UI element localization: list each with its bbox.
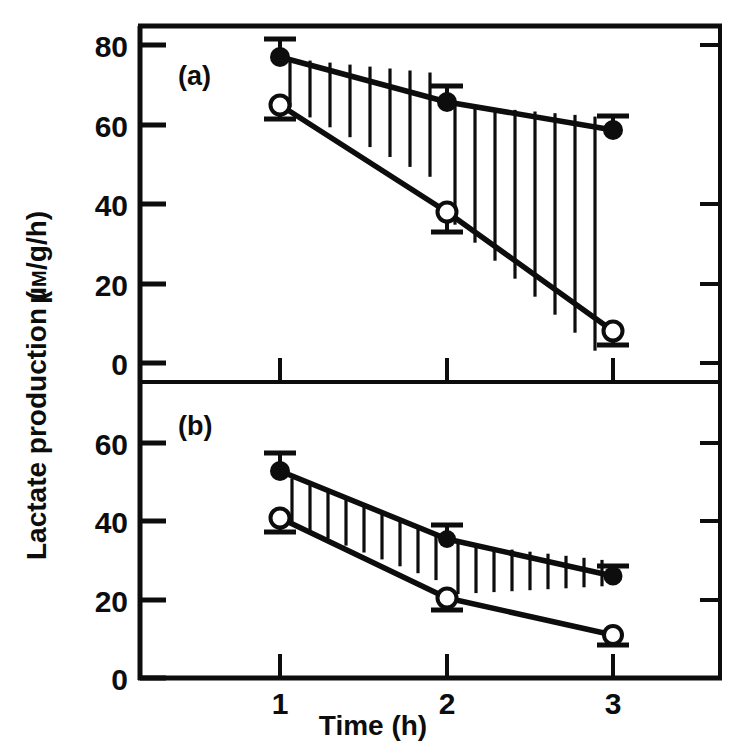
- y-axis-label-m: M: [28, 270, 50, 287]
- panel-a-ytick-60: 60: [95, 110, 128, 143]
- panel-a-y-ticks: [140, 45, 166, 363]
- y-axis-label-tail: /g/h): [21, 211, 52, 270]
- panel-a-ytick-80: 80: [95, 30, 128, 63]
- panel-b-y-ticks: [140, 443, 166, 678]
- panel-b-closed-error-bars: [264, 453, 629, 576]
- panel-b-tag: (b): [178, 411, 212, 441]
- panel-b-right-ticks: [700, 443, 720, 600]
- panel-b-ytick-60: 60: [95, 428, 128, 461]
- y-axis-label: Lactate production ( μ M /g/h): [21, 211, 52, 560]
- panel-b-ytick-40: 40: [95, 506, 128, 539]
- panel-b: 60 40 20 0 1 2 3 (b): [95, 382, 722, 720]
- figure-container: Lactate production ( μ M /g/h) Time (h): [0, 0, 746, 756]
- panel-b-xtick-3: 3: [605, 687, 622, 720]
- panel-a-ytick-0: 0: [111, 348, 128, 381]
- lactate-production-figure: Lactate production ( μ M /g/h) Time (h): [0, 0, 746, 756]
- panel-a-tag: (a): [178, 61, 211, 91]
- panel-b-ytick-20: 20: [95, 585, 128, 618]
- y-axis-label-mu: μ: [21, 287, 52, 304]
- panel-a-right-ticks: [700, 45, 720, 363]
- panel-a-x-ticks: [280, 358, 613, 382]
- panel-a-closed-markers: [270, 47, 623, 140]
- panel-a-ytick-40: 40: [95, 189, 128, 222]
- panel-b-xtick-1: 1: [272, 687, 289, 720]
- panel-b-x-ticks: [280, 654, 613, 678]
- panel-a-ytick-20: 20: [95, 269, 128, 302]
- panel-b-xtick-2: 2: [439, 687, 456, 720]
- panel-a: 80 60 40 20 0 (a): [95, 26, 722, 382]
- y-axis-label-text: Lactate production (: [21, 290, 52, 560]
- panel-b-ytick-0: 0: [111, 663, 128, 696]
- x-axis-label: Time (h): [319, 710, 427, 741]
